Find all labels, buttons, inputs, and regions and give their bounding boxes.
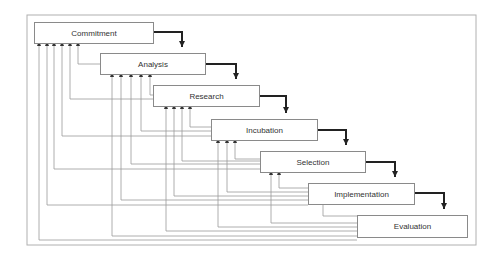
stage-selection: Selection xyxy=(260,151,366,173)
stage-label: Incubation xyxy=(246,126,283,135)
stage-research: Research xyxy=(153,85,260,107)
stage-commitment: Commitment xyxy=(34,22,154,44)
stage-label: Research xyxy=(189,92,223,101)
stage-label: Evaluation xyxy=(394,222,431,231)
stage-evaluation: Evaluation xyxy=(357,215,468,238)
stage-implementation: Implementation xyxy=(308,183,415,205)
stage-label: Analysis xyxy=(138,60,168,69)
feedback-lines xyxy=(39,46,357,240)
stage-label: Selection xyxy=(297,158,330,167)
stage-label: Implementation xyxy=(334,190,389,199)
stage-analysis: Analysis xyxy=(100,53,206,75)
stage-label: Commitment xyxy=(71,29,116,38)
stage-incubation: Incubation xyxy=(211,119,318,141)
